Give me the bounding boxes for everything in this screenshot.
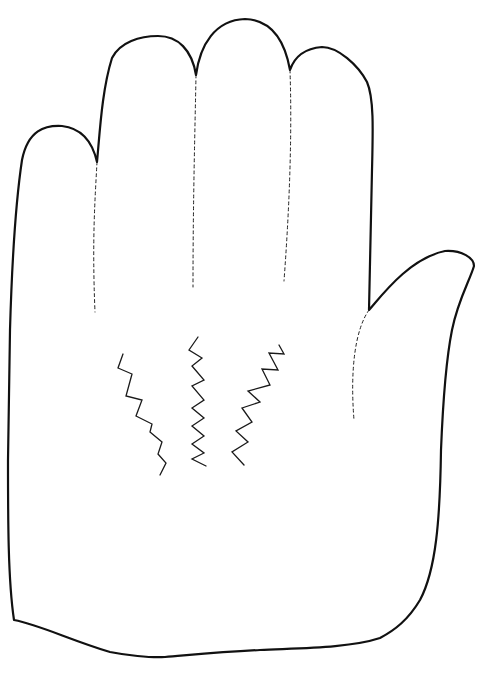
zigzag-left [118, 354, 166, 475]
hand-outline [8, 19, 474, 657]
drawing-canvas [0, 0, 489, 674]
crease-index-pinky [94, 162, 97, 312]
crease-ring-middle [284, 70, 291, 281]
crease-middle-index [193, 75, 196, 287]
hand-drawing [0, 0, 489, 674]
zigzag-center [189, 337, 206, 466]
crease-thumb [353, 310, 369, 420]
zigzag-right [232, 345, 284, 465]
